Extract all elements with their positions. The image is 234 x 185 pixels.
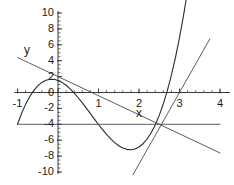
y-tick-label-5: 0 (48, 87, 54, 98)
x-tick-label-4: 3 (176, 98, 182, 109)
y-tick-label-1: -8 (44, 150, 54, 161)
x-tick-label-2: 1 (95, 98, 101, 109)
x-tick-label-5: 4 (217, 98, 223, 109)
y-tick-label-3: -4 (44, 118, 54, 129)
plot-canvas (0, 0, 234, 185)
y-tick-label-8: 6 (48, 39, 54, 50)
x-tick-label-0: -1 (13, 98, 23, 109)
y-tick-label-10: 10 (42, 7, 54, 18)
y-tick-label-7: 4 (48, 55, 54, 66)
series-cubic-curve (18, 0, 188, 150)
y-axis-label: y (24, 44, 30, 56)
plot-root: -11234-10-8-6-4-20246810xy (0, 0, 234, 185)
y-tick-label-2: -6 (44, 134, 54, 145)
y-tick-label-9: 8 (48, 23, 54, 34)
y-tick-label-4: -2 (44, 102, 54, 113)
x-axis-label: x (136, 107, 142, 119)
series-steep-tangent-line (133, 39, 210, 175)
y-tick-label-6: 2 (48, 71, 54, 82)
y-tick-label-0: -10 (38, 166, 54, 177)
